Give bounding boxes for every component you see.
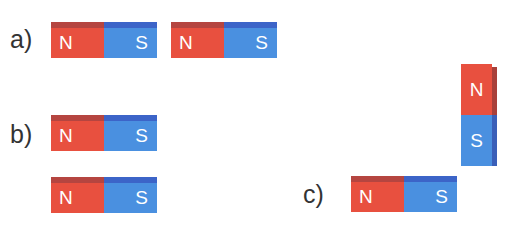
magnet-c2-vertical: N S xyxy=(461,64,497,166)
south-pole: S xyxy=(404,182,457,212)
magnet-front: N S xyxy=(51,28,157,58)
south-pole: S xyxy=(104,183,157,213)
magnet-a1: N S xyxy=(51,22,157,58)
north-pole: N xyxy=(351,182,404,212)
magnet-side-face xyxy=(492,67,497,166)
magnet-front: N S xyxy=(51,183,157,213)
magnet-a2: N S xyxy=(171,22,277,58)
group-label-a: a) xyxy=(10,27,32,52)
magnet-front: N S xyxy=(461,64,492,166)
south-pole: S xyxy=(104,28,157,58)
magnet-front: N S xyxy=(51,121,157,151)
south-pole: S xyxy=(104,121,157,151)
magnet-front: N S xyxy=(351,182,457,212)
magnet-c1: N S xyxy=(351,176,457,212)
group-label-b: b) xyxy=(10,122,32,147)
group-label-c: c) xyxy=(303,182,324,207)
north-pole: N xyxy=(461,64,492,115)
south-pole: S xyxy=(224,28,277,58)
south-pole: S xyxy=(461,115,492,166)
north-pole: N xyxy=(51,121,104,151)
north-pole: N xyxy=(51,28,104,58)
north-pole: N xyxy=(171,28,224,58)
north-pole: N xyxy=(51,183,104,213)
magnet-front: N S xyxy=(171,28,277,58)
side-south xyxy=(492,115,497,166)
magnet-b2: N S xyxy=(51,177,157,213)
side-north xyxy=(492,67,497,115)
magnet-b1: N S xyxy=(51,115,157,151)
